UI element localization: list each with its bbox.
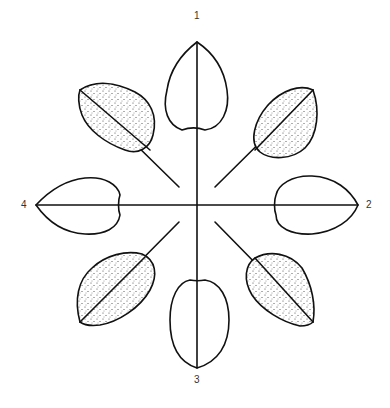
leaf-left <box>36 178 120 234</box>
label-4: 4 <box>21 199 27 210</box>
leaf-nw <box>79 83 155 151</box>
label-3: 3 <box>194 374 200 385</box>
leaf-sw <box>77 253 154 326</box>
radial-leaf-diagram <box>0 0 390 408</box>
label-2: 2 <box>366 199 372 210</box>
leaf-se <box>246 254 314 326</box>
leaf-bottom <box>170 280 229 368</box>
leaf-ne <box>254 88 317 158</box>
label-1: 1 <box>194 10 200 21</box>
